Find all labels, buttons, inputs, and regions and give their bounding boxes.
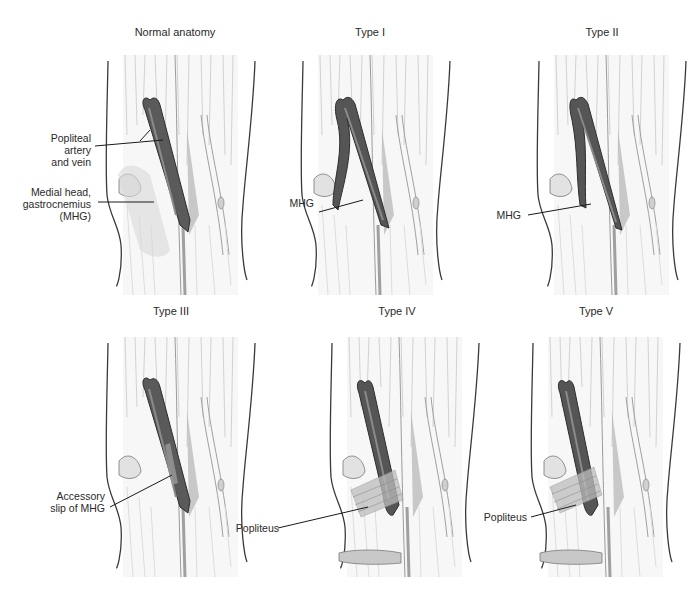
label-line: MHG [290,197,315,209]
label-line: artery [51,144,91,156]
label-accessory-slip-mhg: Accessory slip of MHG [50,490,105,514]
knee-illustration-type-1 [233,0,493,295]
knee-illustration-normal [0,0,260,295]
knee-illustration-type-4 [233,295,493,590]
label-line: gastrocnemius [23,198,91,210]
label-line: Popliteus [236,522,279,534]
panel-type-3: Type III Accessory slip of MHG [0,295,233,590]
knee-illustration-type-3 [0,295,260,590]
knee-illustration-type-2 [466,0,700,295]
panel-type-1: Type I MHG [233,0,466,295]
label-mhg: MHG [290,197,315,209]
label-line: Accessory [50,490,105,502]
label-popliteus: Popliteus [236,522,279,534]
label-medial-head-gastrocnemius: Medial head, gastrocnemius (MHG) [23,186,91,222]
label-line: MHG [497,209,522,221]
panel-normal-anatomy: Normal anatomy Popliteal artery and vein… [0,0,233,295]
label-line: Medial head, [23,186,91,198]
panel-type-4: Type IV Popliteus [233,295,466,590]
label-line: Popliteus [484,511,527,523]
label-line: and vein [51,156,91,168]
label-line: Popliteal [51,132,91,144]
panel-type-2: Type II MHG [466,0,699,295]
label-mhg: MHG [497,209,522,221]
label-popliteal-artery-vein: Popliteal artery and vein [51,132,91,168]
knee-illustration-type-5 [466,295,700,590]
panel-type-5: Type V Popliteus [466,295,699,590]
label-line: (MHG) [23,210,91,222]
label-popliteus: Popliteus [484,511,527,523]
label-line: slip of MHG [50,502,105,514]
